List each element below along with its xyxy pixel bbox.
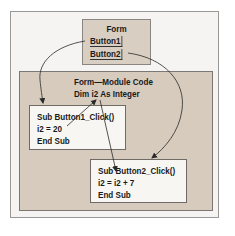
form-button1: Button1 bbox=[90, 36, 122, 47]
code-line: End Sub bbox=[37, 135, 70, 147]
sub-button1-click-box: Sub Button1_Click() i2 = 20 End Sub bbox=[29, 105, 126, 150]
module-title: Form—Module Code bbox=[74, 76, 153, 88]
code-line: i2 = i2 + 7 bbox=[98, 177, 134, 189]
sub-button2-click-box: Sub Button2_Click() i2 = i2 + 7 End Sub bbox=[90, 159, 187, 203]
module-declaration: Dim i2 As Integer bbox=[74, 88, 140, 100]
code-line: i2 = 20 bbox=[37, 123, 62, 135]
form-title: Form bbox=[88, 23, 145, 34]
form-button2: Button2 bbox=[90, 49, 122, 60]
code-line: Sub Button2_Click() bbox=[98, 165, 175, 177]
form-box: Form Button1 Button2 bbox=[82, 19, 151, 65]
code-line: End Sub bbox=[98, 189, 131, 201]
code-line: Sub Button1_Click() bbox=[37, 111, 114, 123]
